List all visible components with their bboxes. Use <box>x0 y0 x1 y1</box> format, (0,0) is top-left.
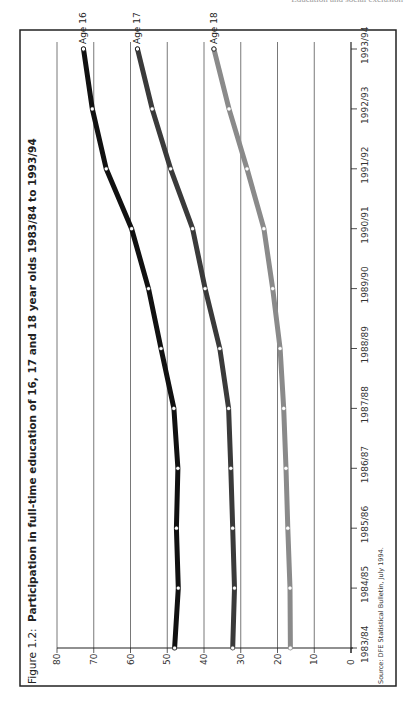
series-age-17: Age 17 <box>132 12 236 649</box>
value-tick-label: 40 <box>199 653 209 665</box>
data-point-marker <box>91 107 94 110</box>
year-tick-label: 1992/93 <box>360 87 370 124</box>
series-end-marker <box>81 47 85 51</box>
data-point-marker <box>245 167 248 170</box>
data-point-marker <box>289 646 292 649</box>
series-label: Age 18 <box>209 12 219 44</box>
data-point-marker <box>227 107 230 110</box>
data-point-marker <box>105 167 108 170</box>
data-point-marker <box>282 407 285 410</box>
value-tick-label: 50 <box>162 653 172 665</box>
year-tick-label: 1986/87 <box>360 446 370 483</box>
year-tick-label: 1987/88 <box>360 386 370 424</box>
axis-labels: 010203040506070801983/841984/851985/8619… <box>52 26 370 665</box>
value-tick-label: 60 <box>126 653 136 665</box>
data-point-marker <box>231 527 234 530</box>
series-end-marker <box>135 47 139 51</box>
year-tick-label: 1984/85 <box>360 566 370 603</box>
data-point-marker <box>262 227 265 230</box>
data-series: Age 16Age 17Age 18 <box>78 12 292 650</box>
data-point-marker <box>176 467 179 470</box>
year-tick-label: 1988/89 <box>360 326 370 364</box>
value-tick-label: 10 <box>309 653 319 665</box>
year-tick-label: 1985/86 <box>360 506 370 544</box>
data-point-marker <box>175 527 178 530</box>
data-point-marker <box>271 287 274 290</box>
data-point-marker <box>147 287 150 290</box>
data-point-marker <box>233 587 236 590</box>
data-point-marker <box>229 467 232 470</box>
axes <box>57 42 357 653</box>
figure-title-text: Participation in full-time education of … <box>26 138 38 622</box>
data-point-marker <box>204 287 207 290</box>
value-tick-label: 20 <box>273 653 283 665</box>
line-chart: Age 16Age 17Age 18 010203040506070801983… <box>0 0 415 726</box>
figure-label: Figure 1.2: <box>26 628 38 684</box>
year-tick-label: 1989/90 <box>360 266 370 304</box>
data-point-marker <box>231 646 234 649</box>
series-label: Age 16 <box>78 12 88 44</box>
data-point-marker <box>218 347 221 350</box>
data-point-marker <box>278 347 281 350</box>
year-tick-label: 1991/92 <box>360 146 370 183</box>
year-tick-label: 1993/94 <box>360 26 370 64</box>
data-point-marker <box>227 407 230 410</box>
value-tick-label: 0 <box>346 659 356 665</box>
data-point-marker <box>172 407 175 410</box>
value-tick-label: 30 <box>236 653 246 665</box>
series-label: Age 17 <box>132 12 142 44</box>
figure-frame <box>20 30 396 686</box>
data-point-marker <box>177 587 180 590</box>
series-age-18: Age 18 <box>209 12 292 650</box>
figure-source: Source: DFE Statistical Bulletin, July 1… <box>377 547 385 684</box>
data-point-marker <box>169 167 172 170</box>
data-point-marker <box>159 347 162 350</box>
figure-title: Figure 1.2: Participation in full-time e… <box>26 138 38 684</box>
data-point-marker <box>284 467 287 470</box>
data-point-marker <box>191 227 194 230</box>
series-end-marker <box>212 47 216 51</box>
data-point-marker <box>286 527 289 530</box>
data-point-marker <box>151 107 154 110</box>
data-point-marker <box>288 587 291 590</box>
data-point-marker <box>130 227 133 230</box>
value-tick-label: 70 <box>89 653 99 665</box>
value-tick-label: 80 <box>52 653 62 665</box>
year-tick-label: 1983/84 <box>360 625 370 663</box>
year-tick-label: 1990/91 <box>360 206 370 243</box>
data-point-marker <box>173 646 176 649</box>
